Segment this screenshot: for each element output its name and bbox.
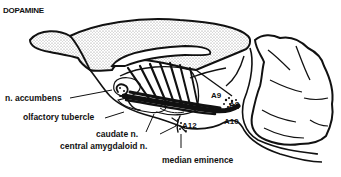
label-a9: A9 (211, 91, 222, 100)
brain-diagram: n. accumbens olfactory tubercle caudate … (0, 0, 341, 177)
label-n-accumbens: n. accumbens (5, 93, 62, 103)
cortex (30, 19, 250, 71)
label-a10: A10 (224, 117, 239, 126)
label-a8: A8 (229, 100, 240, 109)
label-caudate-n: caudate n. (96, 129, 138, 139)
label-median-eminence: median eminence (162, 155, 234, 165)
label-olfactory-tubercle: olfactory tubercle (23, 112, 95, 122)
cerebellum (243, 35, 333, 154)
label-central-amygdaloid-n: central amygdaloid n. (60, 141, 147, 151)
label-a12: A12 (182, 121, 197, 130)
